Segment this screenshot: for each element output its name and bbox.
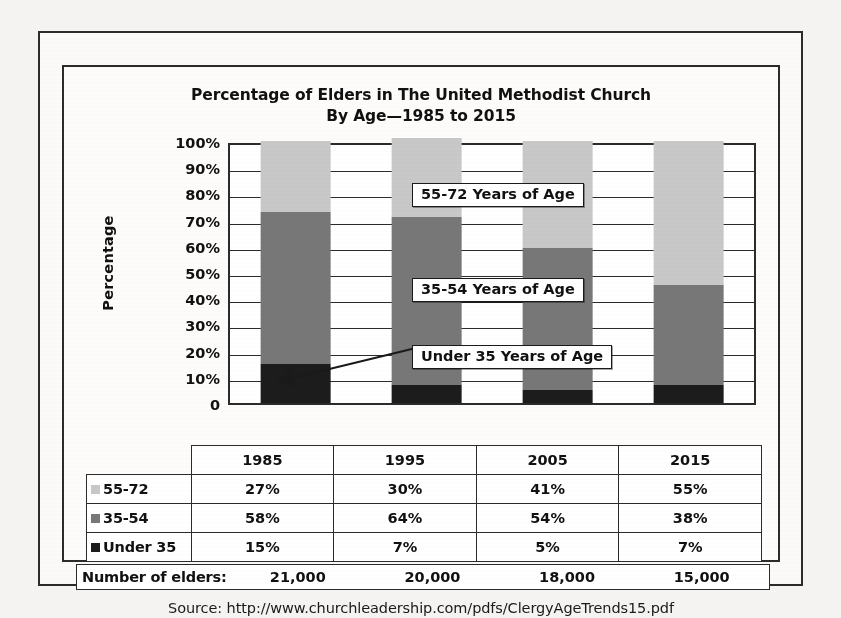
document-page-frame: Percentage of Elders in The United Metho… bbox=[38, 31, 803, 586]
chart-title-line-1: Percentage of Elders in The United Metho… bbox=[191, 86, 651, 104]
table-year-header: 2015 bbox=[619, 446, 762, 475]
table-cell: 15% bbox=[191, 533, 334, 562]
table-cell: 27% bbox=[191, 475, 334, 504]
bar-segment-under-35 bbox=[653, 385, 724, 403]
table-cell: 58% bbox=[191, 504, 334, 533]
number-of-elders-label: Number of elders: bbox=[77, 569, 227, 585]
table-row: 55-7227%30%41%55% bbox=[87, 475, 762, 504]
number-of-elders-value: 20,000 bbox=[365, 569, 500, 585]
y-axis-title: Percentage bbox=[100, 193, 116, 333]
legend-swatch-icon bbox=[91, 514, 100, 523]
number-of-elders-value: 18,000 bbox=[500, 569, 635, 585]
table-corner-cell bbox=[87, 446, 192, 475]
chart-title: Percentage of Elders in The United Metho… bbox=[64, 85, 778, 127]
table-header-row: 1985199520052015 bbox=[87, 446, 762, 475]
table-cell: 7% bbox=[619, 533, 762, 562]
bar-column-2015 bbox=[623, 145, 754, 403]
stacked-bar bbox=[653, 145, 724, 403]
chart-container: Percentage of Elders in The United Metho… bbox=[62, 65, 780, 562]
y-tick-label: 40% bbox=[185, 293, 220, 308]
annotation-55-72: 55-72 Years of Age bbox=[412, 183, 584, 207]
table-year-header: 1985 bbox=[191, 446, 334, 475]
data-table-head: 1985199520052015 bbox=[87, 446, 762, 475]
table-cell: 55% bbox=[619, 475, 762, 504]
table-cell: 64% bbox=[334, 504, 477, 533]
table-row: 35-5458%64%54%38% bbox=[87, 504, 762, 533]
plot-area: 55-72 Years of Age 35-54 Years of Age Un… bbox=[228, 143, 756, 405]
table-year-header: 2005 bbox=[476, 446, 619, 475]
table-row-label: 55-72 bbox=[87, 475, 192, 504]
number-of-elders-row: Number of elders: 21,00020,00018,00015,0… bbox=[76, 564, 770, 590]
chart-title-line-2: By Age—1985 to 2015 bbox=[64, 106, 778, 127]
bar-segment-under-35 bbox=[260, 364, 331, 403]
annotation-under-35: Under 35 Years of Age bbox=[412, 345, 612, 369]
data-table-body: 55-7227%30%41%55%35-5458%64%54%38%Under … bbox=[87, 475, 762, 562]
table-cell: 54% bbox=[476, 504, 619, 533]
y-tick-label: 10% bbox=[185, 372, 220, 387]
y-tick-label: 90% bbox=[185, 162, 220, 177]
y-tick-label: 0 bbox=[210, 398, 220, 413]
number-of-elders-value: 21,000 bbox=[231, 569, 366, 585]
table-cell: 38% bbox=[619, 504, 762, 533]
table-cell: 7% bbox=[334, 533, 477, 562]
stacked-bar bbox=[260, 145, 331, 403]
y-tick-label: 70% bbox=[185, 214, 220, 229]
table-cell: 30% bbox=[334, 475, 477, 504]
bar-segment-55-72 bbox=[260, 141, 331, 212]
y-tick-label: 80% bbox=[185, 188, 220, 203]
bar-segment-55-72 bbox=[653, 141, 724, 285]
data-table: 1985199520052015 55-7227%30%41%55%35-545… bbox=[86, 445, 762, 562]
legend-swatch-icon bbox=[91, 543, 100, 552]
y-axis-tick-labels: 100%90%80%70%60%50%40%30%20%10%0 bbox=[150, 143, 224, 405]
plot-region: Percentage 100%90%80%70%60%50%40%30%20%1… bbox=[64, 143, 778, 443]
bar-segment-under-35 bbox=[522, 390, 593, 403]
annotation-35-54: 35-54 Years of Age bbox=[412, 278, 584, 302]
table-year-header: 1995 bbox=[334, 446, 477, 475]
table-row: Under 3515%7%5%7% bbox=[87, 533, 762, 562]
bar-segment-under-35 bbox=[391, 385, 462, 403]
bar-segment-35-54 bbox=[260, 212, 331, 364]
table-row-label: 35-54 bbox=[87, 504, 192, 533]
number-of-elders-value: 15,000 bbox=[634, 569, 769, 585]
y-tick-label: 100% bbox=[175, 136, 220, 151]
y-tick-label: 60% bbox=[185, 241, 220, 256]
bar-segment-35-54 bbox=[653, 285, 724, 385]
table-row-label: Under 35 bbox=[87, 533, 192, 562]
table-cell: 41% bbox=[476, 475, 619, 504]
legend-swatch-icon bbox=[91, 485, 100, 494]
bar-column-1985 bbox=[230, 145, 361, 403]
y-tick-label: 50% bbox=[185, 267, 220, 282]
y-tick-label: 20% bbox=[185, 345, 220, 360]
y-tick-label: 30% bbox=[185, 319, 220, 334]
table-cell: 5% bbox=[476, 533, 619, 562]
source-citation: Source: http://www.churchleadership.com/… bbox=[64, 600, 778, 616]
